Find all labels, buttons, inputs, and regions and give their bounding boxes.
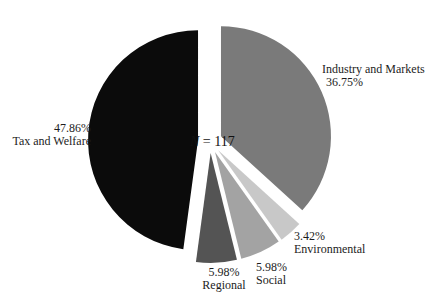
- tax-name-text: Tax and Welfare: [12, 135, 91, 148]
- regional-name-text: Regional: [194, 279, 254, 292]
- label-environmental: 3.42% Environmental: [294, 230, 365, 256]
- sample-size-annotation: N = 117: [190, 134, 235, 149]
- label-tax-and-welfare: 47.86% Tax and Welfare: [12, 122, 91, 148]
- pie-chart: [0, 0, 433, 299]
- label-social: 5.98% Social: [256, 261, 287, 287]
- pie-slice-industry-and-markets: [221, 26, 331, 210]
- industry-pct-text: 36.75%: [322, 76, 425, 89]
- n-value-text: = 117: [199, 134, 234, 149]
- n-symbol-text: N: [190, 134, 199, 149]
- label-regional: 5.98% Regional: [194, 266, 254, 292]
- pie-slice-tax-and-welfare: [88, 30, 198, 249]
- label-industry-and-markets: Industry and Markets 36.75%: [322, 63, 425, 89]
- pie-chart-figure: Industry and Markets 36.75% 47.86% Tax a…: [0, 0, 433, 299]
- environmental-name-text: Environmental: [294, 243, 365, 256]
- social-name-text: Social: [256, 274, 287, 287]
